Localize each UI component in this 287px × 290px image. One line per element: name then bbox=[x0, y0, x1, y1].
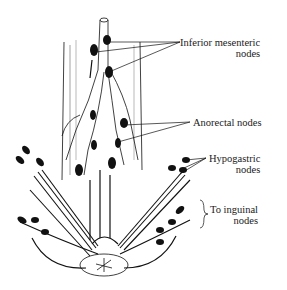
label-to-inguinal-nodes: To inguinal nodes bbox=[210, 204, 258, 226]
lymph-nodes bbox=[14, 35, 190, 245]
label-hypogastric-nodes: Hypogastric nodes bbox=[209, 153, 260, 175]
pelvic-floor-bundles bbox=[20, 170, 190, 256]
vessel-trunk bbox=[62, 18, 138, 175]
label-inferior-mesenteric-nodes: Inferior mesenteric nodes bbox=[180, 37, 260, 59]
label-line: Hypogastric bbox=[209, 153, 260, 164]
label-anorectal-nodes: Anorectal nodes bbox=[193, 117, 262, 128]
label-line: To inguinal bbox=[210, 204, 258, 215]
leader-lines bbox=[96, 42, 208, 228]
label-line: Inferior mesenteric bbox=[180, 37, 260, 48]
label-line: Anorectal nodes bbox=[193, 117, 262, 128]
rectum-wall bbox=[62, 40, 142, 180]
anal-canal bbox=[80, 254, 128, 276]
label-line: nodes bbox=[209, 164, 260, 175]
label-line: nodes bbox=[210, 215, 258, 226]
label-line: nodes bbox=[180, 48, 260, 59]
